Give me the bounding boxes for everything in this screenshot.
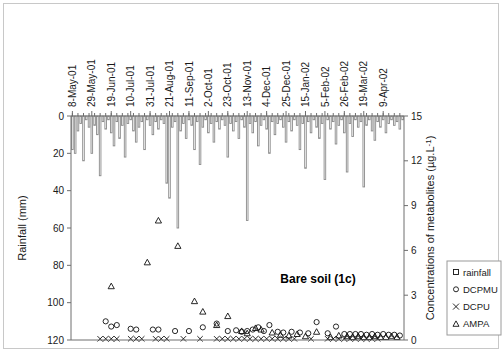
rainfall-bar (221, 116, 223, 120)
rainfall-bar (72, 116, 74, 150)
rainfall-bar (108, 116, 110, 120)
rainfall-bar (224, 116, 226, 125)
rainfall-bar (344, 116, 346, 133)
dcpu-point (308, 336, 313, 341)
rainfall-bar (393, 116, 395, 125)
rainfall-bar (166, 116, 168, 183)
rainfall-bar (99, 116, 101, 176)
rainfall-bar (185, 116, 187, 138)
x-tick-label: 8-May-01 (67, 64, 78, 107)
rainfall-bar (208, 116, 210, 133)
rainfall-bar (355, 116, 357, 120)
rainfall-bar (307, 116, 309, 122)
rainfall-bar (233, 116, 235, 131)
rainfall-bar (127, 116, 129, 123)
right-axis-title: Concentrations of metabolites (µg.L-1) (424, 136, 437, 321)
dcpmu-point (156, 327, 161, 332)
rainfall-bar (135, 116, 137, 142)
rainfall-bar (191, 116, 193, 125)
ampa-point (175, 243, 181, 249)
x-tick-label: 26-Feb-02 (339, 60, 350, 107)
right-tick-label: 15 (411, 111, 423, 122)
rainfall-bar (269, 116, 271, 153)
chart-legend: rainfallDCPMUDCPUAMPA (447, 261, 501, 335)
rainfall-bar (174, 116, 176, 122)
rainfall-bar (105, 116, 107, 129)
x-tick-label: 29-May-01 (86, 59, 97, 107)
rainfall-bar (205, 116, 207, 120)
right-tick-label: 9 (411, 200, 417, 211)
rainfall-bar (169, 116, 171, 198)
rainfall-bar (296, 116, 298, 125)
dcpmu-point (186, 328, 191, 333)
rainfall-bar (371, 116, 373, 131)
rainfall-bar (97, 116, 99, 135)
rainfall-bar (288, 116, 290, 122)
dcpmu-point (103, 319, 108, 324)
rainfall-bar (366, 116, 368, 125)
dcpmu-point (134, 327, 139, 332)
rainfall-bar (302, 116, 304, 123)
dcpu-point (114, 336, 119, 341)
rainfall-bar (163, 116, 165, 123)
legend-label-dcpu: DCPU (463, 301, 490, 312)
ampa-point (269, 329, 275, 335)
ampa-point (155, 217, 161, 223)
rainfall-bar (282, 116, 284, 127)
x-tick-label: 4-Dec-01 (261, 65, 272, 107)
left-tick-label: 0 (58, 111, 64, 122)
rainfall-bar (177, 116, 179, 228)
dcpu-point (128, 336, 133, 341)
x-tick-label: 5-Feb-02 (320, 66, 331, 107)
dcpu-point (269, 336, 274, 341)
dcpmu-point (381, 331, 386, 336)
rainfall-bar (294, 116, 296, 120)
dcpu-point (220, 336, 225, 341)
legend-label-dcpmu: DCPMU (463, 284, 498, 295)
left-axis-title: Rainfall (mm) (16, 195, 28, 260)
rainfall-bar (241, 116, 243, 120)
x-tick-label: 21-Aug-01 (164, 60, 175, 107)
dcpmu-point (200, 325, 205, 330)
rainfall-bar (357, 116, 359, 127)
rainfall-bar (316, 116, 318, 127)
rainfall-bar (77, 116, 79, 131)
rainfall-bar (313, 116, 315, 120)
rainfall-bar (219, 116, 221, 129)
rainfall-bar (263, 116, 265, 120)
rainfall-bar (285, 116, 287, 142)
rainfall-bar (385, 116, 387, 133)
rainfall-bar (402, 116, 404, 120)
dcpu-point (225, 336, 230, 341)
rainfall-bar (271, 116, 273, 122)
rainfall-bar (349, 116, 351, 123)
dcpmu-point (314, 319, 319, 324)
rainfall-bar (291, 116, 293, 131)
rainfall-bar (244, 116, 246, 127)
rainfall-bar (155, 116, 157, 122)
rainfall-bar (171, 116, 173, 127)
dcpu-point (197, 336, 202, 341)
dcpu-point (181, 336, 186, 341)
rainfall-bar (396, 116, 398, 122)
x-tick-label: 2-Oct-01 (203, 68, 214, 107)
dcpu-point (109, 336, 114, 341)
rainfall-bar (327, 116, 329, 120)
dcpu-point (336, 336, 341, 341)
dcpmu-point (325, 331, 330, 336)
dcpu-point (247, 336, 252, 341)
rainfall-bar (196, 116, 198, 122)
dcpu-point (264, 336, 269, 341)
rainfall-bar (338, 116, 340, 125)
rainfall-bar (227, 116, 229, 157)
ampa-point (144, 259, 150, 265)
left-tick-label: 40 (53, 185, 65, 196)
dcpu-point (103, 336, 108, 341)
legend-label-ampa: AMPA (463, 318, 490, 329)
rainfall-bar (202, 116, 204, 127)
x-tick-label: 23-Oct-01 (222, 62, 233, 107)
x-tick-label: 9-Apr-02 (378, 68, 389, 107)
right-tick-label: 12 (411, 155, 423, 166)
dcpu-point (236, 336, 241, 341)
rainfall-bar (180, 116, 182, 131)
